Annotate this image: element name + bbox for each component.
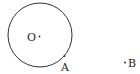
label-a: A bbox=[60, 61, 70, 74]
geometry-diagram: O A B bbox=[0, 0, 140, 74]
center-point-o bbox=[39, 36, 41, 38]
label-b: B bbox=[128, 57, 136, 70]
label-o: O bbox=[27, 31, 36, 44]
point-a bbox=[64, 55, 66, 57]
point-b bbox=[124, 62, 126, 64]
circle-o bbox=[8, 3, 72, 67]
